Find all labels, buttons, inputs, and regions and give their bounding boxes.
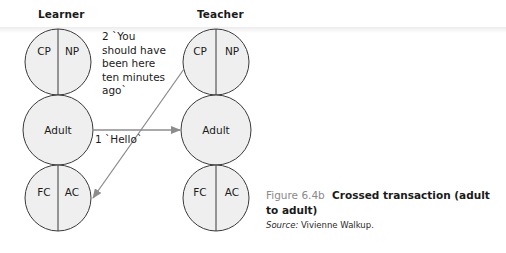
teacher-ac-label: AC [225,186,239,198]
learner-ac-label: AC [65,186,79,198]
transaction-2-line: ten minutes [102,71,166,85]
teacher-child-circle: FC AC [183,165,249,231]
learner-adult-label: Adult [44,124,71,136]
teacher-adult-label: Adult [202,124,229,136]
source-label: Source: [266,220,298,230]
figure-source: Source: Vivienne Walkup. [266,220,374,230]
teacher-fc-label: FC [193,186,206,198]
transaction-2-line: 2 `You [102,30,166,44]
learner-cp-label: CP [37,45,51,57]
transaction-2-line: been here [102,57,166,71]
teacher-np-label: NP [225,45,239,57]
figure-number: Figure 6.4b [266,189,325,201]
learner-fc-label: FC [37,186,50,198]
figure-caption: Figure 6.4b Crossed transaction (adult t… [266,188,502,218]
teacher-cp-label: CP [193,45,207,57]
learner-np-label: NP [65,45,79,57]
teacher-adult-circle: Adult [181,95,251,165]
transaction-1-label: 1 `Hello` [95,133,142,147]
learner-parent-circle: CP NP [25,29,91,95]
learner-child-circle: FC AC [25,165,91,231]
transaction-2-line: ago` [102,84,166,98]
teacher-parent-circle: CP NP [183,29,249,95]
source-text: Vivienne Walkup. [298,220,374,230]
transaction-2-line: should have [102,44,166,58]
transaction-2-label: 2 `You should have been here ten minutes… [102,30,166,98]
learner-adult-circle: Adult [23,95,93,165]
